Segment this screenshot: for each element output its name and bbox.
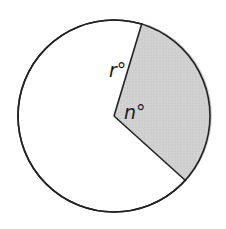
label-n: n°	[124, 101, 146, 123]
circle-diagram: r° n°	[0, 0, 226, 229]
label-r: r°	[109, 59, 126, 81]
